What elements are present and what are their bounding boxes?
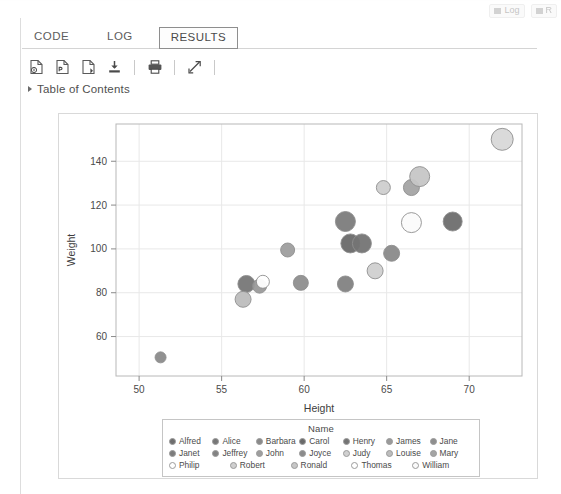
legend-item-carol[interactable]: Carol <box>299 436 342 447</box>
x-axis-tick-label: 50 <box>134 384 146 395</box>
legend-swatch-icon <box>412 462 419 469</box>
x-axis-tick-label: 60 <box>299 384 311 395</box>
legend-swatch-icon <box>212 438 219 445</box>
legend-item-william[interactable]: William <box>412 460 473 471</box>
legend-item-thomas[interactable]: Thomas <box>351 460 412 471</box>
legend-item-label: John <box>266 448 284 459</box>
y-axis-title: Weight <box>65 234 77 267</box>
legend-swatch-icon <box>256 450 263 457</box>
data-point[interactable] <box>352 234 371 253</box>
data-point[interactable] <box>335 212 355 232</box>
legend-item-janet[interactable]: Janet <box>169 448 212 459</box>
legend-item-label: Philip <box>179 460 199 471</box>
download-rtf-icon[interactable] <box>80 58 97 76</box>
legend-item-jane[interactable]: Jane <box>430 436 473 447</box>
legend-item-label: Ronald <box>301 460 328 471</box>
legend-item-joyce[interactable]: Joyce <box>299 448 342 459</box>
results-tabbar: CODE LOG RESULTS <box>22 22 537 49</box>
data-point[interactable] <box>238 275 255 292</box>
data-point[interactable] <box>235 291 251 307</box>
legend-item-label: Alfred <box>179 436 201 447</box>
legend-item-james[interactable]: James <box>386 436 429 447</box>
legend-item-henry[interactable]: Henry <box>343 436 386 447</box>
legend-item-label: Henry <box>353 436 375 447</box>
legend-item-label: Thomas <box>361 460 391 471</box>
legend-item-jeffrey[interactable]: Jeffrey <box>212 448 255 459</box>
top-right-log-chip[interactable]: Log <box>489 4 524 18</box>
save-icon[interactable] <box>106 58 123 76</box>
download-html-icon[interactable] <box>28 58 45 76</box>
data-point[interactable] <box>384 245 400 261</box>
legend-swatch-icon <box>351 462 358 469</box>
top-right-secondary-chip[interactable]: R <box>531 4 558 18</box>
print-icon[interactable] <box>146 58 163 76</box>
x-axis-tick-label: 70 <box>464 384 476 395</box>
legend-row: PhilipRobertRonaldThomasWilliam <box>169 460 473 471</box>
legend-swatch-icon <box>256 438 263 445</box>
legend-item-robert[interactable]: Robert <box>230 460 291 471</box>
log-icon <box>494 8 501 14</box>
legend-item-john[interactable]: John <box>256 448 299 459</box>
legend-item-alice[interactable]: Alice <box>212 436 255 447</box>
data-point[interactable] <box>337 276 353 292</box>
legend-item-mary[interactable]: Mary <box>430 448 473 459</box>
download-pdf-icon[interactable] <box>54 58 71 76</box>
legend-item-louise[interactable]: Louise <box>386 448 429 459</box>
legend-swatch-icon <box>430 438 437 445</box>
legend-swatch-icon <box>386 438 393 445</box>
legend-swatch-icon <box>343 438 350 445</box>
legend-row: JanetJeffreyJohnJoyceJudyLouiseMary <box>169 448 473 459</box>
left-panel-divider <box>20 18 21 494</box>
data-point[interactable] <box>155 352 166 363</box>
data-point[interactable] <box>281 243 295 257</box>
legend-item-judy[interactable]: Judy <box>343 448 386 459</box>
y-axis-tick-label: 120 <box>90 200 107 211</box>
legend-item-barbara[interactable]: Barbara <box>256 436 299 447</box>
tab-results[interactable]: RESULTS <box>159 27 238 49</box>
data-points-group <box>155 128 513 363</box>
legend-item-philip[interactable]: Philip <box>169 460 230 471</box>
y-axis-tick-label: 140 <box>90 156 107 167</box>
data-point[interactable] <box>367 263 383 279</box>
legend-swatch-icon <box>169 462 176 469</box>
x-axis-tick-label: 65 <box>381 384 393 395</box>
legend-item-label: Alice <box>222 436 240 447</box>
data-point[interactable] <box>410 167 430 187</box>
legend-swatch-icon <box>169 450 176 457</box>
legend-swatch-icon <box>169 438 176 445</box>
legend-item-alfred[interactable]: Alfred <box>169 436 212 447</box>
data-point[interactable] <box>256 275 269 288</box>
top-right-log-label: Log <box>504 6 519 15</box>
legend-item-label: James <box>396 436 421 447</box>
data-point[interactable] <box>443 212 462 231</box>
data-point[interactable] <box>376 181 390 195</box>
data-point[interactable] <box>293 275 308 290</box>
chart-legend: Name AlfredAliceBarbaraCarolHenryJamesJa… <box>162 419 480 477</box>
table-of-contents-toggle[interactable]: Table of Contents <box>28 83 130 95</box>
legend-item-label: Louise <box>396 448 421 459</box>
legend-item-label: Janet <box>179 448 200 459</box>
toolbar-separator-2 <box>174 60 175 75</box>
data-point[interactable] <box>401 213 421 233</box>
legend-entries: AlfredAliceBarbaraCarolHenryJamesJaneJan… <box>169 436 473 471</box>
tab-log[interactable]: LOG <box>95 26 145 48</box>
legend-item-label: Robert <box>240 460 265 471</box>
legend-item-ronald[interactable]: Ronald <box>291 460 352 471</box>
top-right-secondary-label: R <box>546 6 553 15</box>
toolbar-separator <box>134 60 135 75</box>
results-chart-container: 50556065706080100120140HeightWeight Name… <box>58 113 538 479</box>
y-axis-tick-label: 80 <box>96 287 108 298</box>
legend-item-label: Carol <box>309 436 329 447</box>
panel-icon <box>536 8 543 14</box>
legend-swatch-icon <box>343 450 350 457</box>
data-point[interactable] <box>491 128 513 150</box>
window-top-right-strip: Log R <box>489 4 557 18</box>
tab-code[interactable]: CODE <box>22 26 81 48</box>
y-axis-tick-label: 100 <box>90 243 107 254</box>
legend-swatch-icon <box>299 450 306 457</box>
expand-icon[interactable] <box>186 58 203 76</box>
results-toolbar <box>28 56 217 78</box>
legend-item-label: Jane <box>440 436 458 447</box>
y-axis-tick-label: 60 <box>96 331 108 342</box>
legend-swatch-icon <box>212 450 219 457</box>
